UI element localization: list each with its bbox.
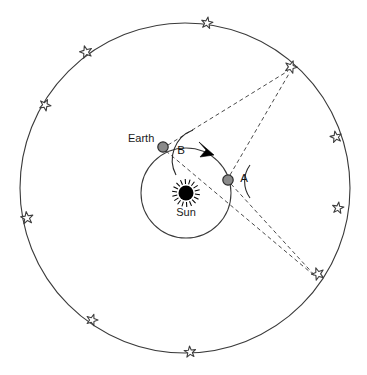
parallax-diagram-root: Earth Sun B A [0,0,367,375]
label-angle-a: A [240,172,248,184]
star-icon [184,346,196,358]
sun-ray-icon [176,183,179,187]
sun-ray-icon [172,191,177,192]
label-earth: Earth [128,132,154,144]
sun-ray-icon [189,180,190,185]
sun-ray-icon [181,180,183,185]
sun-ray-icon [178,200,181,204]
star-icon [85,313,99,327]
star-icon [332,201,345,213]
earth-marker-position-b[interactable] [158,142,168,152]
star-icon [201,16,214,29]
sightline-a-to-far-star [231,184,318,279]
sightline-a-to-near-star [230,72,290,175]
label-sun: Sun [176,206,196,218]
sun-core-icon [179,186,194,201]
earth-marker-position-a[interactable] [223,175,233,185]
sun-ray-icon [174,187,178,189]
diagram-canvas: Earth Sun B A [0,0,367,375]
sun-ray-icon [172,195,177,196]
sun-ray-icon [174,198,178,201]
sun-ray-icon [194,185,198,188]
label-angle-b: B [177,144,185,156]
sun-ray-icon [194,197,198,199]
sun-glyph [172,179,200,207]
sun-ray-icon [192,200,195,204]
sun-ray-icon [191,182,194,186]
orbit-direction-arrow-icon [199,142,214,157]
sun-ray-icon [195,190,200,191]
sun-ray-icon [195,194,200,195]
